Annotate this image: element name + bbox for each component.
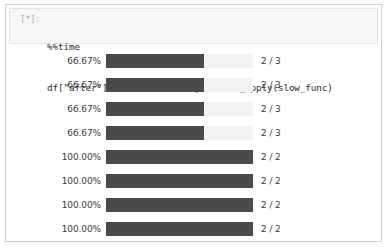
progress-count-label: 2 / 3 <box>253 56 281 66</box>
progress-bar-fill <box>106 174 253 188</box>
progress-bar-row: 66.67%2 / 3 <box>6 49 381 73</box>
progress-bar-row: 100.00%2 / 2 <box>6 193 381 217</box>
progress-percent-label: 66.67% <box>6 80 106 90</box>
progress-count-label: 2 / 2 <box>253 224 281 234</box>
progress-percent-label: 100.00% <box>6 224 106 234</box>
progress-bar-row: 100.00%2 / 2 <box>6 169 381 193</box>
progress-bar-row: 100.00%2 / 2 <box>6 217 381 241</box>
progress-bar-fill <box>106 78 204 92</box>
progress-count-label: 2 / 3 <box>253 104 281 114</box>
progress-bar-track <box>106 174 253 188</box>
progress-bar-row: 66.67%2 / 3 <box>6 121 381 145</box>
cell-output-area: 66.67%2 / 366.67%2 / 366.67%2 / 366.67%2… <box>6 49 381 241</box>
progress-bar-track <box>106 54 253 68</box>
progress-percent-label: 100.00% <box>6 200 106 210</box>
progress-percent-label: 66.67% <box>6 128 106 138</box>
progress-bar-row: 66.67%2 / 3 <box>6 73 381 97</box>
progress-bar-track <box>106 198 253 212</box>
progress-bar-row: 66.67%2 / 3 <box>6 97 381 121</box>
progress-bar-fill <box>106 54 204 68</box>
progress-count-label: 2 / 2 <box>253 152 281 162</box>
progress-bar-row: 100.00%2 / 2 <box>6 145 381 169</box>
progress-percent-label: 100.00% <box>6 152 106 162</box>
progress-bar-track <box>106 78 253 92</box>
cell-execution-prompt: [*]: <box>14 14 40 24</box>
progress-bar-track <box>106 102 253 116</box>
progress-bar-track <box>106 126 253 140</box>
progress-bar-fill <box>106 150 253 164</box>
progress-percent-label: 100.00% <box>6 176 106 186</box>
code-cell[interactable]: [*]: %%time df["after"] = df["before"].p… <box>9 8 378 44</box>
notebook-cell-frame: [*]: %%time df["after"] = df["before"].p… <box>5 4 382 242</box>
progress-count-label: 2 / 2 <box>253 176 281 186</box>
progress-percent-label: 66.67% <box>6 56 106 66</box>
progress-bar-track <box>106 150 253 164</box>
progress-count-label: 2 / 2 <box>253 200 281 210</box>
progress-percent-label: 66.67% <box>6 104 106 114</box>
progress-bar-fill <box>106 126 204 140</box>
progress-bar-track <box>106 222 253 236</box>
progress-count-label: 2 / 3 <box>253 80 281 90</box>
progress-count-label: 2 / 3 <box>253 128 281 138</box>
progress-bar-fill <box>106 198 253 212</box>
progress-bar-fill <box>106 222 253 236</box>
progress-bar-fill <box>106 102 204 116</box>
